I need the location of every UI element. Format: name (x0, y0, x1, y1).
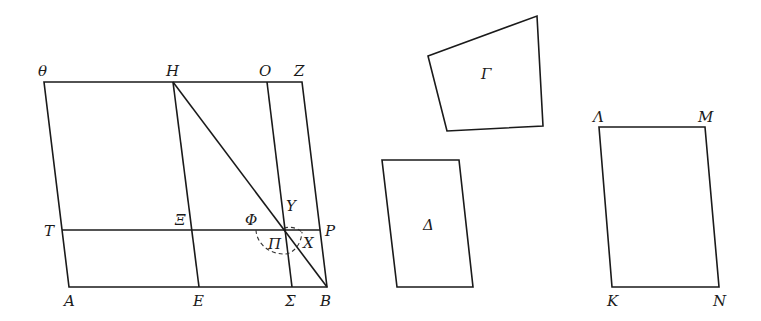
parallelogram-lambda-m-n-k (599, 127, 719, 287)
label-x: X (302, 234, 315, 252)
label-upsilon: Υ (286, 197, 298, 215)
label-sigma: Σ (284, 292, 296, 310)
geometry-diagram: θ H O Z T Ξ Φ Υ P Π X A E Σ B Γ Δ Λ M K … (0, 0, 761, 321)
label-gamma: Γ (480, 65, 492, 83)
label-phi: Φ (245, 211, 257, 229)
gamma-figure: Γ (428, 16, 543, 131)
main-figure: θ H O Z T Ξ Φ Υ P Π X A E Σ B (38, 62, 336, 310)
label-m: M (697, 108, 714, 126)
label-t: T (44, 222, 55, 240)
label-h: H (165, 62, 180, 80)
label-p: P (324, 222, 336, 240)
lambda-mnk-figure: Λ M K N (591, 108, 727, 310)
label-e: E (192, 292, 204, 310)
label-a: A (62, 292, 75, 310)
label-k: K (606, 292, 619, 310)
label-b: B (319, 292, 331, 310)
label-z: Z (293, 62, 305, 80)
label-n: N (712, 292, 727, 310)
delta-figure: Δ (382, 160, 473, 287)
label-lambda: Λ (591, 108, 604, 126)
label-xi: Ξ (174, 211, 186, 229)
label-theta: θ (38, 62, 47, 80)
label-o: O (259, 62, 271, 80)
line-o-sigma (267, 82, 292, 287)
diagonal-h-b (173, 82, 327, 287)
label-pi: Π (267, 235, 282, 253)
label-delta: Δ (422, 216, 434, 234)
